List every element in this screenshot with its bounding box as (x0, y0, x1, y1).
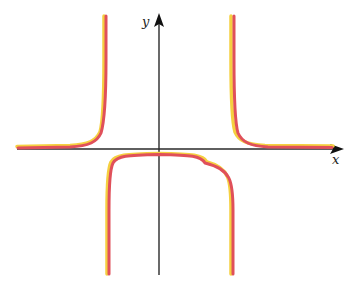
middle-branch (109, 155, 233, 275)
x-axis-label: x (332, 152, 340, 167)
curve-highlight (17, 16, 333, 274)
right-branch (234, 16, 332, 148)
function-graph: y x (0, 0, 356, 291)
left-branch (18, 16, 106, 148)
y-axis-label: y (141, 14, 150, 29)
